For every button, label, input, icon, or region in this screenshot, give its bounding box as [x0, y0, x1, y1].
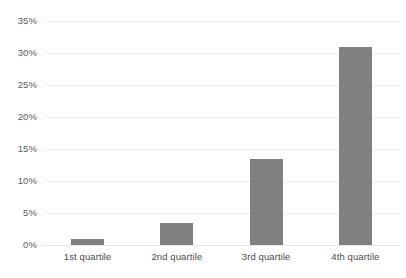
x-axis-tick-label: 4th quartile [331, 252, 379, 262]
y-axis-tick-label: 0% [3, 240, 37, 250]
y-axis-tick-label: 20% [3, 112, 37, 122]
y-axis-tick-label: 5% [3, 208, 37, 218]
gridline [43, 21, 400, 22]
x-axis-tick-label: 2nd quartile [151, 252, 202, 262]
bar-chart: 0%5%10%15%20%25%30%35% 1st quartile2nd q… [0, 0, 406, 278]
y-axis-tick-label: 25% [3, 80, 37, 90]
y-axis-tick-label: 30% [3, 48, 37, 58]
x-axis-tick-label: 1st quartile [64, 252, 112, 262]
y-axis-tick-label: 35% [3, 16, 37, 26]
bar[interactable] [160, 223, 193, 245]
y-axis-tick-label: 10% [3, 176, 37, 186]
bar[interactable] [71, 239, 104, 245]
bar[interactable] [339, 47, 372, 245]
gridline [43, 245, 400, 246]
bar[interactable] [250, 159, 283, 245]
plot-area [43, 21, 400, 245]
y-axis-tick-label: 15% [3, 144, 37, 154]
x-axis-tick-label: 3rd quartile [242, 252, 291, 262]
